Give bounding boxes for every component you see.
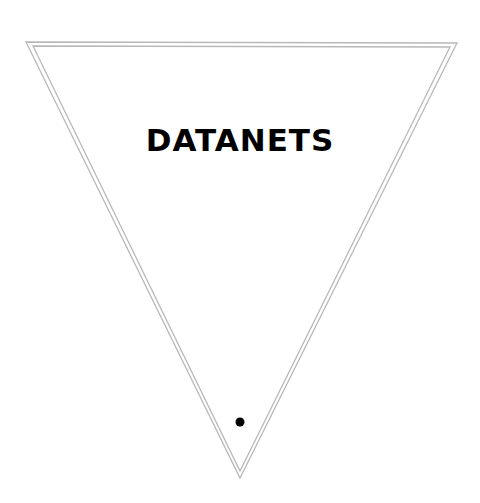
- pennant-shape: [0, 0, 480, 503]
- hole-dot-icon: [236, 418, 245, 427]
- pennant-flag: DATANETS: [0, 0, 480, 503]
- pennant-title: DATANETS: [0, 122, 480, 158]
- outer-triangle-border: [26, 42, 457, 478]
